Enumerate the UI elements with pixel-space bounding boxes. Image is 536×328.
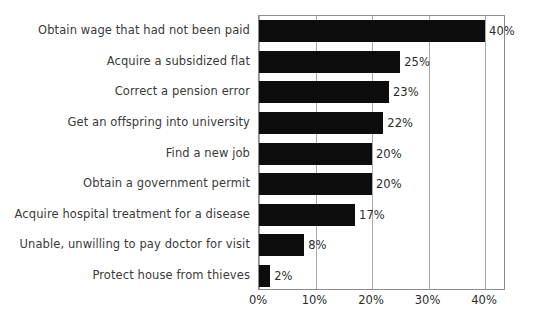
x-tick-label: 10% (302, 294, 328, 307)
bar (259, 143, 372, 165)
bar-value-label: 22% (387, 117, 413, 129)
bar-value-label: 25% (404, 56, 430, 68)
bar-value-label: 20% (376, 178, 402, 190)
category-label: Get an offspring into university (68, 116, 251, 128)
category-label: Acquire hospital treatment for a disease (15, 208, 250, 220)
bar (259, 234, 304, 256)
x-axis-tick-labels: 0%10%20%30%40% (258, 294, 505, 314)
gridline-40pct (485, 16, 486, 289)
plot-area: 40%25%23%22%20%20%17%8%2% (258, 15, 505, 290)
category-label: Correct a pension error (115, 85, 250, 97)
bar (259, 173, 372, 195)
bar (259, 112, 383, 134)
bar (259, 51, 400, 73)
bar (259, 20, 485, 42)
category-label: Obtain a government permit (83, 177, 250, 189)
category-label: Protect house from thieves (92, 269, 250, 281)
bar-chart: Obtain wage that had not been paidAcquir… (0, 0, 536, 328)
bar (259, 204, 355, 226)
bar-value-label: 2% (274, 270, 292, 282)
category-label: Unable, unwilling to pay doctor for visi… (19, 238, 250, 250)
bar-value-label: 40% (489, 25, 515, 37)
category-label: Obtain wage that had not been paid (38, 24, 250, 36)
bar (259, 81, 389, 103)
category-label: Acquire a subsidized flat (107, 55, 250, 67)
x-tick-label: 20% (358, 294, 384, 307)
bar-value-label: 8% (308, 239, 326, 251)
bar (259, 265, 270, 287)
bar-value-label: 20% (376, 148, 402, 160)
x-tick-label: 30% (415, 294, 441, 307)
x-tick-label: 40% (471, 294, 497, 307)
bar-value-label: 17% (359, 209, 385, 221)
category-label: Find a new job (166, 147, 250, 159)
category-axis-labels: Obtain wage that had not been paidAcquir… (0, 15, 254, 290)
x-tick-label: 0% (249, 294, 267, 307)
bar-value-label: 23% (393, 86, 419, 98)
